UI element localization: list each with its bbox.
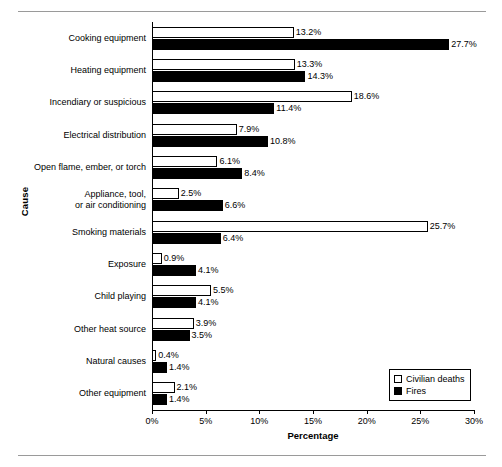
bar-value-label: 6.1% [219, 156, 240, 167]
category-label: Appliance, tool, or air conditioning [0, 189, 146, 211]
bar-value-label: 8.4% [244, 168, 265, 179]
bar-civilian-deaths: 3.9% [152, 318, 194, 329]
bar-value-label: 6.6% [225, 200, 246, 211]
bar-value-label: 4.1% [198, 265, 219, 276]
bar-civilian-deaths: 13.2% [152, 27, 294, 38]
bar-civilian-deaths: 13.3% [152, 59, 295, 70]
bar-value-label: 25.7% [430, 221, 456, 232]
bar-civilian-deaths: 7.9% [152, 124, 237, 135]
bar-fires: 6.6% [152, 200, 223, 211]
bar-value-label: 27.7% [451, 39, 477, 50]
black-square-icon [394, 387, 402, 395]
x-axis-tick [420, 410, 421, 414]
bar-value-label: 4.1% [198, 297, 219, 308]
x-axis-tick [474, 410, 475, 414]
bar-value-label: 11.4% [276, 103, 301, 114]
x-axis-tick-label: 30% [454, 416, 494, 426]
bar-value-label: 6.4% [223, 233, 244, 244]
category-label: Heating equipment [0, 65, 146, 76]
legend-item-civilian-deaths: Civilian deaths [394, 373, 465, 385]
bar-fires: 8.4% [152, 168, 242, 179]
legend-label: Fires [406, 385, 426, 397]
bar-civilian-deaths: 18.6% [152, 91, 352, 102]
bar-value-label: 13.3% [297, 59, 323, 70]
white-square-icon [394, 375, 402, 383]
bar-value-label: 18.6% [354, 91, 380, 102]
bar-fires: 14.3% [152, 71, 305, 82]
bar-value-label: 1.4% [169, 362, 190, 373]
category-label: Natural causes [0, 356, 146, 367]
bar-civilian-deaths: 0.4% [152, 350, 156, 361]
x-axis-tick [206, 410, 207, 414]
category-label: Exposure [0, 259, 146, 270]
x-axis-tick-label: 5% [186, 416, 226, 426]
bar-value-label: 2.1% [177, 382, 198, 393]
bar-civilian-deaths: 2.5% [152, 188, 179, 199]
bottom-divider-rule [18, 455, 486, 456]
category-label: Other equipment [0, 388, 146, 399]
category-label: Smoking materials [0, 227, 146, 238]
bar-value-label: 10.8% [270, 136, 296, 147]
category-label: Cooking equipment [0, 33, 146, 44]
bar-civilian-deaths: 2.1% [152, 382, 175, 393]
category-label: Incendiary or suspicious [0, 97, 146, 108]
bar-fires: 1.4% [152, 394, 167, 405]
bar-value-label: 3.9% [196, 318, 217, 329]
x-axis-tick-label: 20% [347, 416, 387, 426]
bar-fires: 4.1% [152, 265, 196, 276]
bar-value-label: 13.2% [296, 27, 322, 38]
bar-value-label: 5.5% [213, 285, 234, 296]
x-axis-tick [367, 410, 368, 414]
category-label: Other heat source [0, 324, 146, 335]
x-axis-tick-label: 10% [239, 416, 279, 426]
bar-fires: 1.4% [152, 362, 167, 373]
plot-area: 0%5%10%15%20%25%30% Cooking equipment13.… [152, 22, 474, 410]
x-axis-tick-label: 0% [132, 416, 172, 426]
bar-fires: 10.8% [152, 136, 268, 147]
bar-civilian-deaths: 6.1% [152, 156, 217, 167]
chart-page: Cause 0%5%10%15%20%25%30% Cooking equipm… [0, 0, 502, 467]
bar-fires: 4.1% [152, 297, 196, 308]
category-label: Open flame, ember, or torch [0, 162, 146, 173]
x-axis-tick-label: 15% [293, 416, 333, 426]
bar-value-label: 7.9% [239, 124, 260, 135]
bar-value-label: 1.4% [169, 394, 190, 405]
bar-value-label: 14.3% [307, 71, 333, 82]
bar-civilian-deaths: 25.7% [152, 221, 428, 232]
bar-fires: 6.4% [152, 233, 221, 244]
category-label: Child playing [0, 291, 146, 302]
bar-value-label: 0.4% [158, 350, 179, 361]
x-axis-tick [259, 410, 260, 414]
chart-legend: Civilian deaths Fires [389, 369, 471, 401]
top-divider-rule [18, 11, 486, 12]
x-axis-title: Percentage [152, 430, 474, 441]
x-axis-tick-label: 25% [400, 416, 440, 426]
bar-civilian-deaths: 0.9% [152, 253, 162, 264]
x-axis-tick [152, 410, 153, 414]
legend-item-fires: Fires [394, 385, 465, 397]
bar-civilian-deaths: 5.5% [152, 285, 211, 296]
category-label: Electrical distribution [0, 130, 146, 141]
bar-fires: 27.7% [152, 39, 449, 50]
bar-fires: 11.4% [152, 103, 274, 114]
bar-value-label: 3.5% [192, 330, 213, 341]
x-axis-tick [313, 410, 314, 414]
legend-label: Civilian deaths [406, 373, 465, 385]
bar-value-label: 2.5% [181, 188, 202, 199]
bar-fires: 3.5% [152, 330, 190, 341]
bar-value-label: 0.9% [164, 253, 185, 264]
